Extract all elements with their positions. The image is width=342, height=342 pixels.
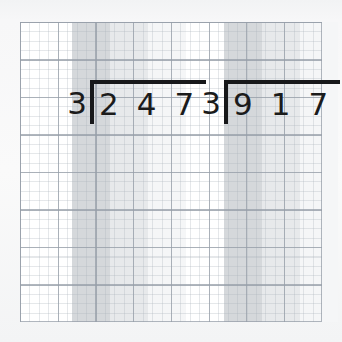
worksheet-page: 3 2 4 7 3 9 1 7	[0, 0, 342, 342]
dividend-digit: 2	[90, 80, 128, 126]
dividend-2: 9 1 7	[224, 80, 337, 126]
divisor-1: 3	[64, 80, 90, 126]
dividend-digit: 1	[262, 80, 300, 126]
divisor-2: 3	[198, 80, 224, 126]
dividend-digit: 9	[224, 80, 262, 126]
dividend-digit: 7	[300, 80, 338, 126]
dividend-1: 2 4 7	[90, 80, 203, 126]
grid-area: 3 2 4 7 3 9 1 7	[20, 22, 322, 322]
dividend-digit: 4	[128, 80, 166, 126]
grid-outer-border	[20, 22, 322, 322]
